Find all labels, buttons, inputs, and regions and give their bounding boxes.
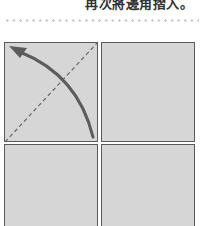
fold-diagram <box>4 42 195 226</box>
quadrant-bottom-right <box>101 144 195 226</box>
instruction-caption: 再次將邊角摺入。 <box>85 0 193 12</box>
quadrant-bottom-left <box>4 144 98 226</box>
quadrant-top-left <box>4 42 98 142</box>
dotted-divider <box>4 19 199 22</box>
quadrant-top-right <box>101 42 195 142</box>
